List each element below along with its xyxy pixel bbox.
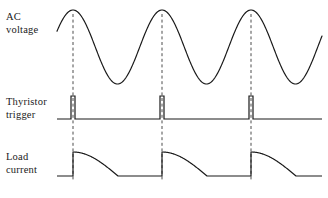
waveform-plot xyxy=(0,0,328,198)
thyristor-trigger-waveform xyxy=(57,96,322,119)
load-current-waveform xyxy=(57,152,322,176)
thyristor-waveform-figure: AC voltage Thyristor trigger Load curren… xyxy=(0,0,328,198)
ac-voltage-waveform xyxy=(57,10,322,84)
